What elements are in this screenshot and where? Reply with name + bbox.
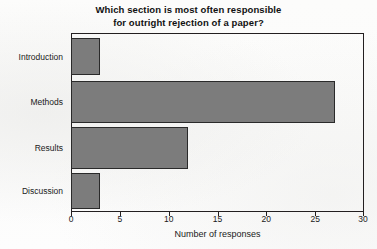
x-tick-label-15: 15 (213, 214, 222, 224)
x-axis-title: Number of responses (71, 229, 364, 239)
bar-methods (71, 81, 335, 123)
chart-title-line-2: for outright rejection of a paper? (0, 16, 377, 29)
category-label-methods: Methods (30, 97, 63, 107)
x-tick-label-10: 10 (164, 214, 173, 224)
bars-layer (71, 33, 364, 212)
x-tick-label-30: 30 (358, 214, 367, 224)
bar-discussion (71, 173, 100, 209)
bar-results (71, 127, 188, 169)
chart-figure: Which section is most often responsible … (0, 0, 377, 249)
x-tick-label-25: 25 (310, 214, 319, 224)
x-tick-label-0: 0 (69, 214, 74, 224)
x-tick-label-5: 5 (117, 214, 122, 224)
chart-title-line-1: Which section is most often responsible (0, 3, 377, 16)
bar-introduction (71, 38, 100, 75)
category-label-discussion: Discussion (22, 186, 63, 196)
category-axis-labels: Introduction Methods Results Discussion (0, 33, 67, 212)
x-tick-label-20: 20 (262, 214, 271, 224)
chart-title: Which section is most often responsible … (0, 3, 377, 29)
x-axis-tick-labels: 0 5 10 15 20 25 30 (0, 214, 377, 228)
category-label-results: Results (35, 143, 63, 153)
category-label-introduction: Introduction (19, 52, 63, 62)
